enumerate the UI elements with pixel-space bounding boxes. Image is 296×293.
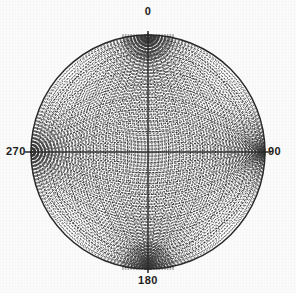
stereonet-canvas [0,0,296,293]
stereonet-figure: 0 90 180 270 [0,0,296,293]
azimuth-label-90: 90 [268,146,281,157]
azimuth-label-270: 270 [6,146,26,157]
azimuth-label-0: 0 [0,6,296,17]
azimuth-label-180: 180 [0,275,296,286]
